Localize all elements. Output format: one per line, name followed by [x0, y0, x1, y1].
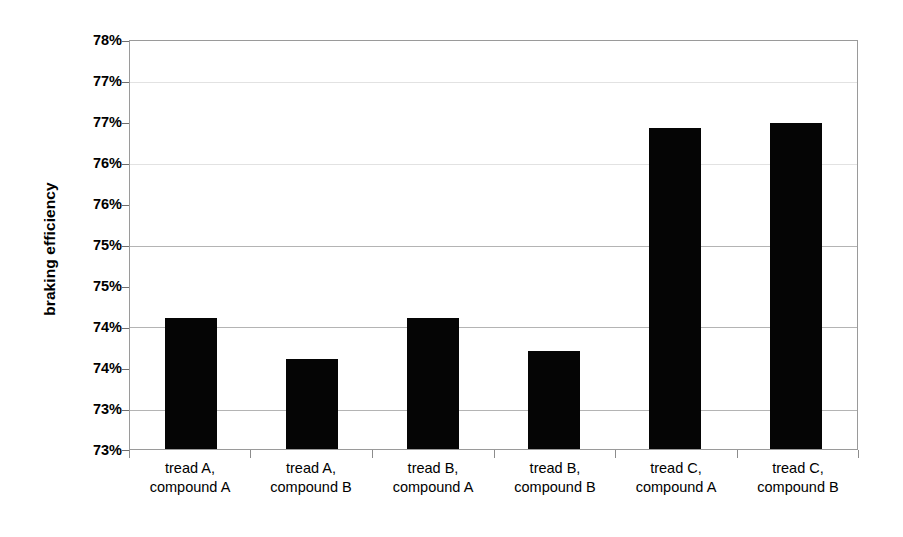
y-tick-label: 77% [64, 74, 122, 89]
y-tick-mark [122, 246, 129, 247]
y-tick-label: 76% [64, 156, 122, 171]
bar-tread-c-compound-a [649, 128, 701, 449]
gridline-75-0 [130, 246, 857, 247]
y-tick-mark [122, 328, 129, 329]
y-axis-tick-labels: 78% 77% 77% 76% 76% 75% 75% 74% 74% 73% … [58, 0, 122, 537]
x-category-label-3: tread B, compound B [494, 459, 616, 497]
x-category-label-1: tread A, compound B [250, 459, 372, 497]
x-category-label-line2: compound A [372, 478, 494, 497]
x-tick-mark [615, 450, 616, 458]
x-category-label-5: tread C, compound B [737, 459, 859, 497]
x-category-label-line2: compound B [494, 478, 616, 497]
x-category-label-line1: tread B, [372, 459, 494, 478]
x-tick-mark [372, 450, 373, 458]
y-tick-mark [122, 369, 129, 370]
y-tick-mark [122, 41, 129, 42]
plot-area [129, 40, 858, 450]
x-category-label-line1: tread A, [250, 459, 372, 478]
bar-tread-a-compound-b [286, 359, 338, 449]
gridline-76-5 [130, 164, 857, 165]
y-tick-mark [122, 450, 129, 451]
bar-tread-c-compound-b [770, 123, 822, 449]
gridline-77-5 [130, 82, 857, 83]
y-tick-mark [122, 164, 129, 165]
y-tick-label: 75% [64, 238, 122, 253]
y-tick-label: 77% [64, 115, 122, 130]
y-tick-mark [122, 287, 129, 288]
x-category-label-line2: compound A [615, 478, 737, 497]
x-tick-mark [494, 450, 495, 458]
bar-chart: braking efficiency 78% 77% 77% 76% 76% 7… [0, 0, 903, 537]
y-tick-label: 73% [64, 402, 122, 417]
x-tick-mark [250, 450, 251, 458]
y-tick-label: 74% [64, 361, 122, 376]
y-tick-label: 73% [64, 443, 122, 458]
x-tick-mark [737, 450, 738, 458]
x-category-label-line2: compound B [250, 478, 372, 497]
y-tick-mark [122, 205, 129, 206]
x-category-label-line1: tread C, [737, 459, 859, 478]
bar-tread-b-compound-a [407, 318, 459, 449]
y-tick-mark [122, 410, 129, 411]
x-category-label-4: tread C, compound A [615, 459, 737, 497]
gridline-73-5 [130, 410, 857, 411]
y-tick-label: 78% [64, 33, 122, 48]
x-tick-mark [858, 450, 859, 458]
y-tick-label: 76% [64, 197, 122, 212]
x-category-label-line1: tread B, [494, 459, 616, 478]
bar-tread-b-compound-b [528, 351, 580, 449]
x-category-label-2: tread B, compound A [372, 459, 494, 497]
y-axis-title: braking efficiency [41, 139, 59, 359]
x-category-label-line1: tread C, [615, 459, 737, 478]
x-category-label-0: tread A, compound A [129, 459, 251, 497]
bar-tread-a-compound-a [165, 318, 217, 449]
x-category-label-line2: compound A [129, 478, 251, 497]
y-tick-mark [122, 123, 129, 124]
gridline-74-5 [130, 327, 857, 328]
y-tick-label: 75% [64, 279, 122, 294]
x-category-label-line2: compound B [737, 478, 859, 497]
y-tick-mark [122, 82, 129, 83]
y-tick-label: 74% [64, 320, 122, 335]
x-category-label-line1: tread A, [129, 459, 251, 478]
x-tick-mark [129, 450, 130, 458]
